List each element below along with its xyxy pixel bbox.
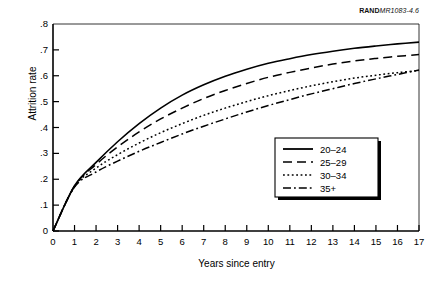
x-tick-label: 7 [192, 236, 216, 247]
x-tick-label: 17 [407, 236, 431, 247]
attrition-rate-chart: RANDMR1083-4.6 Attrition rate Years sinc… [0, 0, 441, 281]
x-tick-label: 11 [278, 236, 302, 247]
x-tick-label: 1 [63, 236, 87, 247]
x-tick-label: 3 [106, 236, 130, 247]
x-tick-label: 0 [41, 236, 65, 247]
x-tick-label: 13 [321, 236, 345, 247]
y-tick-label: .6 [26, 70, 48, 81]
x-tick-label: 6 [170, 236, 194, 247]
x-tick-label: 10 [256, 236, 280, 247]
x-tick-label: 16 [385, 236, 409, 247]
y-tick-label: .8 [26, 18, 48, 29]
x-tick-label: 12 [299, 236, 323, 247]
x-tick-label: 8 [213, 236, 237, 247]
y-tick-label: 0 [26, 225, 48, 236]
y-tick-label: .4 [26, 122, 48, 133]
x-tick-label: 15 [364, 236, 388, 247]
y-tick-label: .7 [26, 44, 48, 55]
x-tick-label: 2 [84, 236, 108, 247]
y-tick-label: .3 [26, 147, 48, 158]
x-tick-label: 9 [235, 236, 259, 247]
y-tick-label: .1 [26, 199, 48, 210]
legend-label-35+[interactable]: 35+ [320, 183, 337, 194]
series-line-20-24 [53, 42, 419, 231]
x-tick-label: 14 [342, 236, 366, 247]
legend-label-30–34[interactable]: 30–34 [320, 170, 346, 181]
x-tick-label: 5 [149, 236, 173, 247]
x-tick-label: 4 [127, 236, 151, 247]
y-tick-label: .5 [26, 96, 48, 107]
y-tick-label: .2 [26, 173, 48, 184]
legend-label-25–29[interactable]: 25–29 [320, 157, 346, 168]
legend-label-20–24[interactable]: 20–24 [320, 144, 346, 155]
